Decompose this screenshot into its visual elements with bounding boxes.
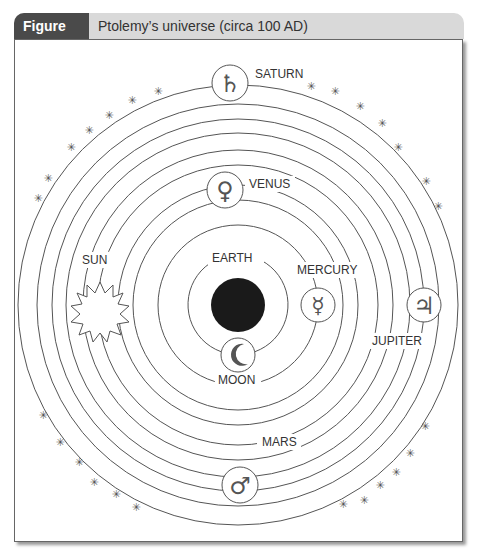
label-sun: SUN [82, 253, 107, 267]
moon-badge [221, 338, 255, 372]
star-icon: ✳ [38, 409, 47, 422]
star-icon: ✳ [355, 100, 364, 113]
label-saturn: SATURN [255, 67, 303, 81]
star-icon: ✳ [131, 501, 140, 514]
star-icon: ✳ [127, 94, 136, 107]
star-icon: ✳ [74, 456, 83, 469]
star-icon: ✳ [377, 117, 386, 130]
star-icon: ✳ [393, 141, 402, 154]
star-icon: ✳ [84, 124, 93, 137]
label-venus: VENUS [249, 177, 290, 191]
mars-symbol-icon: ♂ [229, 472, 251, 500]
star-icon: ✳ [104, 109, 113, 122]
star-icon: ✳ [420, 420, 429, 433]
earth-disc [211, 278, 265, 332]
mercury-symbol-icon: ☿ [311, 293, 325, 318]
star-icon: ✳ [375, 479, 384, 492]
star-icon: ✳ [433, 200, 442, 213]
label-earth: EARTH [212, 251, 252, 265]
star-icon: ✳ [153, 85, 162, 98]
star-icon: ✳ [55, 436, 64, 449]
jupiter-symbol-icon: ♃ [413, 292, 435, 320]
star-icon: ✳ [405, 447, 414, 460]
star-icon: ✳ [89, 476, 98, 489]
venus-symbol-icon: ♀ [216, 177, 234, 205]
star-icon: ✳ [43, 172, 52, 185]
star-icon: ✳ [338, 498, 347, 511]
star-icon: ✳ [359, 494, 368, 507]
star-icon: ✳ [306, 80, 315, 93]
saturn-symbol-icon: ♄ [219, 70, 241, 98]
label-jupiter: JUPITER [372, 334, 422, 348]
star-icon: ✳ [33, 192, 42, 205]
star-icon: ✳ [330, 85, 339, 98]
star-icon: ✳ [391, 466, 400, 479]
star-icon: ✳ [111, 488, 120, 501]
star-icon: ✳ [421, 175, 430, 188]
ptolemy-diagram: EARTH MOON ☿ MERCURY ♀ VENUS SUN ♂ MARS … [0, 0, 477, 556]
star-icon: ✳ [66, 141, 75, 154]
label-mars: MARS [262, 435, 297, 449]
label-mercury: MERCURY [297, 263, 357, 277]
label-moon: MOON [218, 373, 255, 387]
sun-icon [71, 282, 129, 342]
